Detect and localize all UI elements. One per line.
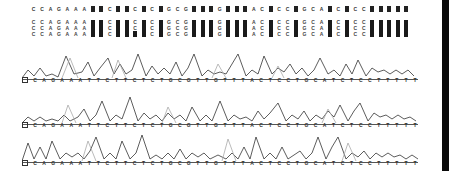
alignment-column: AAA xyxy=(318,19,325,37)
consensus-base xyxy=(225,6,232,12)
alignment-column xyxy=(267,19,274,37)
base-call: C xyxy=(177,159,183,167)
base-call: C xyxy=(276,159,282,167)
base-call: G xyxy=(213,121,219,129)
alignment-base: G xyxy=(167,31,171,37)
base-call: T xyxy=(385,76,391,84)
base-call: T xyxy=(95,76,101,84)
consensus-base: C xyxy=(360,4,367,14)
base-call: T xyxy=(240,76,246,84)
consensus-base xyxy=(386,6,393,12)
base-call: C xyxy=(150,121,156,129)
alignment-base: C xyxy=(108,31,112,37)
alignment-column xyxy=(377,19,384,37)
alignment-column: CCC xyxy=(30,19,37,37)
alignment-column: CCC xyxy=(174,19,181,37)
alignment-column: AAA xyxy=(250,19,257,37)
alignment-column xyxy=(191,19,198,37)
alignment-column xyxy=(98,19,105,37)
alignment-column xyxy=(233,19,240,37)
alignment-column: CC xyxy=(132,19,139,37)
alignment-column xyxy=(394,19,401,37)
base-call: T xyxy=(95,159,101,167)
base-call: T xyxy=(385,159,391,167)
base-call: A xyxy=(68,121,74,129)
alignment-base: A xyxy=(49,31,53,37)
base-call: C xyxy=(177,76,183,84)
base-call: T xyxy=(222,159,228,167)
alignment-base: G xyxy=(184,31,188,37)
alignment-column: CCC xyxy=(309,19,316,37)
consensus-base xyxy=(377,6,384,12)
base-call: T xyxy=(385,121,391,129)
base-call: T xyxy=(231,121,237,129)
base-call: T xyxy=(222,121,228,129)
base-call: C xyxy=(32,76,38,84)
consensus-base: C xyxy=(106,4,113,14)
alignment-column: CCC xyxy=(259,19,266,37)
base-call: C xyxy=(150,76,156,84)
alignment-base: C xyxy=(354,31,358,37)
base-call: T xyxy=(195,159,201,167)
trace-1-sequence: CAGAAATTCTTCTCTGCGTTGTTTACTCCTGCATCTCCTT… xyxy=(22,76,422,84)
base-call: A xyxy=(41,76,47,84)
base-call: C xyxy=(367,159,373,167)
trace-3-sequence: CAGAAATTCTTCTCTGCGTTGTTTACTCCTGCATCTCCTT… xyxy=(22,159,422,167)
base-call: C xyxy=(285,121,291,129)
base-call: G xyxy=(186,76,192,84)
base-call: T xyxy=(86,121,92,129)
base-call: T xyxy=(231,76,237,84)
alignment-column: AAA xyxy=(72,19,79,37)
base-call: T xyxy=(159,159,165,167)
base-call: T xyxy=(204,121,210,129)
base-call: C xyxy=(132,121,138,129)
base-call: T xyxy=(267,121,273,129)
alignment-column xyxy=(242,19,249,37)
alignment-column xyxy=(225,19,232,37)
base-call: A xyxy=(68,76,74,84)
base-call: G xyxy=(168,159,174,167)
alignment-column xyxy=(123,19,130,37)
base-call: A xyxy=(77,159,83,167)
alignment-base: A xyxy=(83,31,87,37)
alignment-base: C xyxy=(337,31,341,37)
base-call: A xyxy=(59,121,65,129)
base-call: T xyxy=(294,76,300,84)
consensus-sequence-row: CCAGAAACCCGCGGACCCGCACCC xyxy=(30,4,410,14)
consensus-base xyxy=(394,6,401,12)
alignment-base: A xyxy=(252,31,256,37)
alignment-column xyxy=(140,19,147,37)
base-call: A xyxy=(322,159,328,167)
alignment-column xyxy=(208,19,215,37)
base-call: G xyxy=(50,76,56,84)
consensus-base: G xyxy=(55,4,62,14)
right-edge-bar xyxy=(442,0,449,171)
base-call: G xyxy=(168,121,174,129)
base-call: T xyxy=(141,76,147,84)
alignment-column xyxy=(293,19,300,37)
base-call: C xyxy=(258,121,264,129)
consensus-base xyxy=(208,6,215,12)
alignment-base: C xyxy=(362,31,366,37)
base-call: T xyxy=(95,121,101,129)
alignment-column: GGG xyxy=(216,19,223,37)
base-call: A xyxy=(68,159,74,167)
base-call: G xyxy=(186,159,192,167)
alignment-column xyxy=(326,19,333,37)
base-call: T xyxy=(122,76,128,84)
base-call: A xyxy=(249,121,255,129)
alignment-column: CCC xyxy=(352,19,359,37)
base-call: T xyxy=(267,159,273,167)
base-call: C xyxy=(32,121,38,129)
base-call: T xyxy=(204,76,210,84)
base-call: C xyxy=(312,121,318,129)
base-call: C xyxy=(132,159,138,167)
alignment-column: CCC xyxy=(284,19,291,37)
consensus-base: C xyxy=(30,4,37,14)
consensus-base xyxy=(115,6,122,12)
alignment-column: AAA xyxy=(64,19,71,37)
marker-box-icon xyxy=(22,160,28,166)
alignment-column: AAA xyxy=(81,19,88,37)
alignment-column xyxy=(157,19,164,37)
base-call: C xyxy=(32,159,38,167)
